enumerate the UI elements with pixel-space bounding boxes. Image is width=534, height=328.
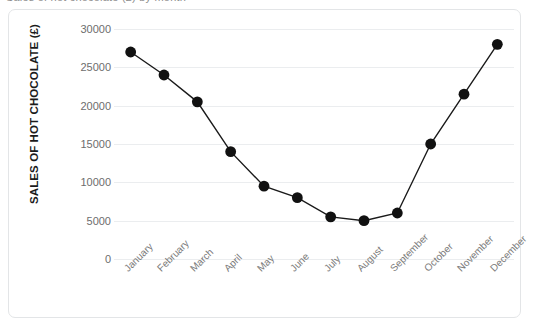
y-axis-tick-label: 30000 (51, 23, 111, 35)
data-point-marker: December: 28000 (492, 39, 503, 50)
y-axis-tick-label: 10000 (51, 176, 111, 188)
series-line (131, 44, 498, 220)
cropped-title-strip: Sales of hot chocolate (£) by month (0, 0, 534, 9)
data-point-marker: July: 5500 (325, 211, 336, 222)
y-axis-tick-label: 25000 (51, 61, 111, 73)
y-axis-title: SALES OF HOT CHOCOLATE (£) (28, 0, 44, 229)
line-series: January: 27000February: 24000March: 2050… (114, 29, 514, 259)
data-point-marker: November: 21500 (459, 89, 470, 100)
data-point-marker: April: 14000 (225, 146, 236, 157)
y-axis-tick-label: 5000 (51, 215, 111, 227)
chart-card: SALES OF HOT CHOCOLATE (£) 0500010000150… (8, 9, 521, 318)
y-axis-tick-label: 0 (51, 253, 111, 265)
data-point-marker: September: 6000 (392, 208, 403, 219)
data-point-marker: May: 9500 (259, 181, 270, 192)
data-point-marker: October: 15000 (425, 139, 436, 150)
series-markers: January: 27000February: 24000March: 2050… (125, 39, 502, 226)
y-axis-tick-label: 20000 (51, 100, 111, 112)
data-point-marker: February: 24000 (159, 70, 170, 81)
data-point-marker: June: 8000 (292, 192, 303, 203)
y-axis-tick-label: 15000 (51, 138, 111, 150)
data-point-marker: March: 20500 (192, 96, 203, 107)
data-point-marker: January: 27000 (125, 47, 136, 58)
plot-area: 050001000015000200002500030000 January: … (114, 29, 514, 259)
data-point-marker: August: 5000 (359, 215, 370, 226)
